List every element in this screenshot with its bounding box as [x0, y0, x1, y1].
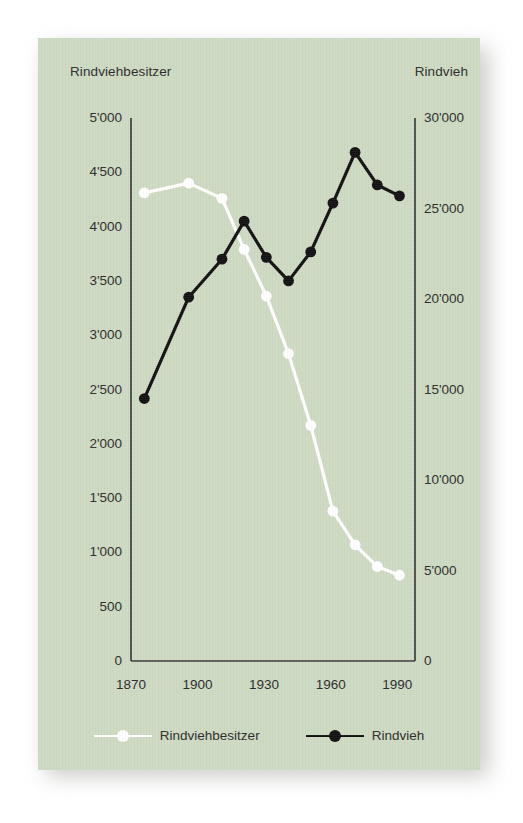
series-data-point	[394, 190, 405, 201]
series-data-point	[372, 561, 383, 572]
series-data-point	[217, 193, 228, 204]
series-data-point	[283, 348, 294, 359]
series-data-point	[305, 247, 316, 258]
series-data-point	[261, 252, 272, 263]
legend-swatch-white-line-icon	[94, 730, 152, 742]
series-data-point	[394, 570, 405, 581]
legend-label-rindvieh: Rindvieh	[372, 728, 425, 743]
left-axis-tick-label: 3'000	[89, 328, 122, 342]
series-data-point	[328, 506, 339, 517]
right-axis-tick-label: 20'000	[424, 292, 464, 306]
series-data-point	[305, 420, 316, 431]
left-axis-tick-label: 2'500	[89, 383, 122, 397]
chart-legend: Rindviehbesitzer Rindvieh	[38, 728, 480, 743]
legend-item-rindviehbesitzer[interactable]: Rindviehbesitzer	[94, 728, 260, 743]
right-axis-tick-label: 10'000	[424, 473, 464, 487]
plot-svg	[38, 38, 480, 770]
series-data-point	[217, 254, 228, 265]
series-data-point	[183, 178, 194, 189]
chart-card: Rindviehbesitzer Rindvieh 05001'0001'500…	[38, 38, 480, 770]
legend-label-rindviehbesitzer: Rindviehbesitzer	[160, 728, 260, 743]
series-data-point	[350, 147, 361, 158]
left-axis-tick-label: 3'500	[89, 274, 122, 288]
series-data-point	[261, 291, 272, 302]
chart-stage: Rindviehbesitzer Rindvieh 05001'0001'500…	[0, 0, 523, 823]
left-axis-tick-label: 1'000	[89, 545, 122, 559]
x-axis-tick-label: 1990	[367, 678, 427, 692]
right-axis-tick-label: 5'000	[424, 564, 457, 578]
left-axis-tick-label: 4'500	[89, 165, 122, 179]
left-axis-tick-label: 2'000	[89, 437, 122, 451]
left-axis-tick-label: 0	[114, 654, 122, 668]
series-data-point	[283, 276, 294, 287]
series-data-point	[350, 539, 361, 550]
legend-swatch-black-line-icon	[306, 730, 364, 742]
series-data-point	[139, 393, 150, 404]
series-data-point	[372, 180, 383, 191]
series-data-point	[139, 188, 150, 199]
x-axis-tick-label: 1900	[168, 678, 228, 692]
series-line	[144, 183, 399, 575]
series-data-point	[239, 244, 250, 255]
series-rindviehbesitzer	[139, 178, 405, 581]
right-axis-tick-label: 25'000	[424, 202, 464, 216]
left-axis-tick-label: 500	[99, 600, 122, 614]
legend-item-rindvieh[interactable]: Rindvieh	[306, 728, 425, 743]
series-data-point	[239, 216, 250, 227]
series-data-point	[328, 198, 339, 209]
x-axis-tick-label: 1960	[301, 678, 361, 692]
plot-area: 05001'0001'5002'0002'5003'0003'5004'0004…	[38, 38, 480, 770]
right-axis-tick-label: 30'000	[424, 111, 464, 125]
left-axis-tick-label: 5'000	[89, 111, 122, 125]
left-axis-tick-label: 1'500	[89, 491, 122, 505]
left-axis-tick-label: 4'000	[89, 220, 122, 234]
x-axis-tick-label: 1870	[101, 678, 161, 692]
right-axis-tick-label: 15'000	[424, 383, 464, 397]
series-data-point	[183, 292, 194, 303]
x-axis-tick-label: 1930	[234, 678, 294, 692]
right-axis-tick-label: 0	[424, 654, 432, 668]
series-line	[144, 152, 399, 398]
